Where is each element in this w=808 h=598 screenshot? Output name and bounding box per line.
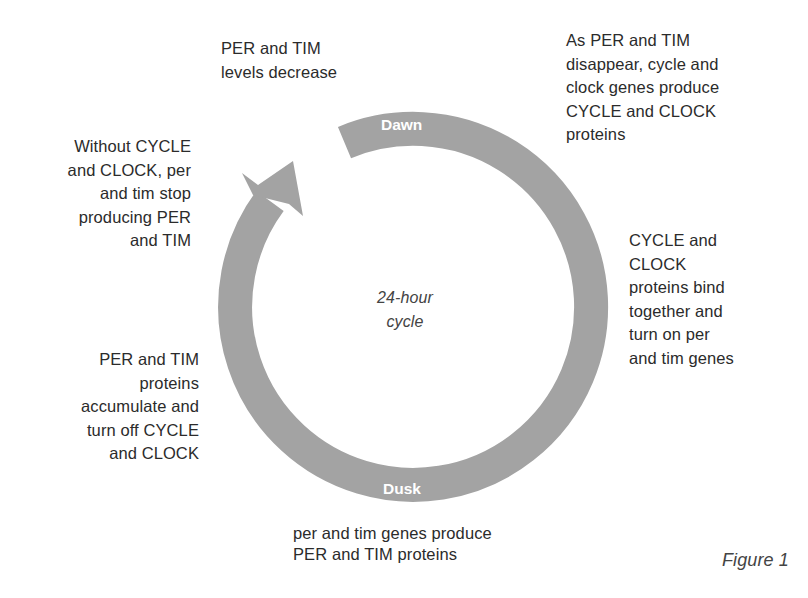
- step-levels-decrease: PER and TIM levels decrease: [221, 37, 337, 84]
- dusk-label: Dusk: [383, 480, 421, 498]
- step-stop-producing: Without CYCLE and CLOCK, per and tim sto…: [10, 135, 191, 253]
- figure-caption: Figure 1: [722, 549, 789, 573]
- step-accumulate: PER and TIM proteins accumulate and turn…: [20, 348, 199, 466]
- step-cycle-clock-produced: As PER and TIM disappear, cycle and cloc…: [566, 29, 719, 147]
- step-genes-produce-proteins: per and tim genes produce PER and TIM pr…: [293, 523, 492, 565]
- dawn-label: Dawn: [381, 116, 422, 134]
- step-bind-together: CYCLE and CLOCK proteins bind together a…: [629, 229, 734, 370]
- center-label: 24-hour cycle: [355, 286, 455, 333]
